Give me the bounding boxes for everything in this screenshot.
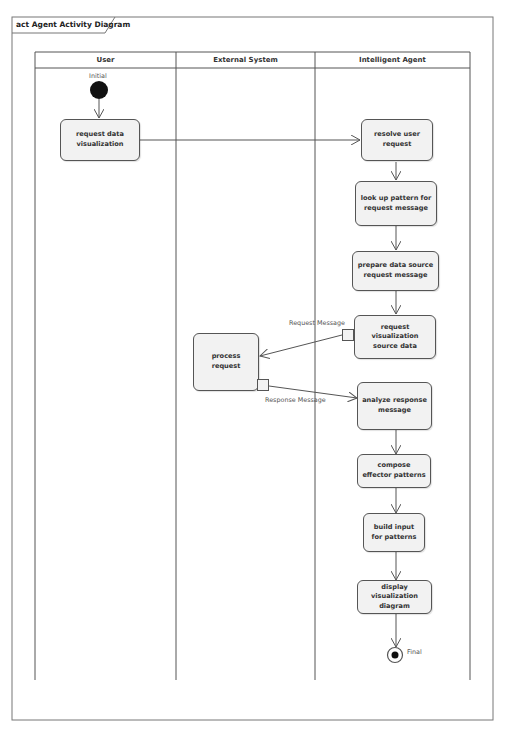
action-look-up-pattern[interactable]: look up pattern for request message — [355, 181, 437, 226]
swimlane-header-user: User — [35, 52, 176, 69]
final-node-label: Final — [407, 648, 422, 656]
output-pin-request-message — [342, 329, 354, 341]
diagram-frame-title: act Agent Activity Diagram — [12, 17, 148, 33]
swimlane-header-intelligent-agent: Intelligent Agent — [315, 52, 470, 69]
action-analyze-response-message[interactable]: analyze response message — [357, 382, 432, 430]
activity-diagram-canvas: act Agent Activity Diagram User External… — [0, 0, 506, 731]
action-process-request[interactable]: process request — [193, 333, 259, 391]
swimlane-header-external-system: External System — [176, 52, 315, 69]
action-request-visualization-source-data[interactable]: request visualization source data — [354, 315, 436, 359]
action-display-visualization-diagram[interactable]: display visualization diagram — [357, 580, 432, 614]
object-flow-label-response-message: Response Message — [265, 396, 326, 404]
output-pin-response-message — [257, 379, 269, 391]
initial-node-icon — [90, 81, 108, 99]
action-compose-effector-patterns[interactable]: compose effector patterns — [357, 454, 431, 488]
object-flow-label-request-message: Request Message — [289, 319, 345, 327]
action-resolve-user-request[interactable]: resolve user request — [361, 119, 433, 161]
action-prepare-data-source-request[interactable]: prepare data source request message — [352, 251, 439, 291]
initial-node-label: Initial — [89, 72, 107, 80]
action-build-input-for-patterns[interactable]: build input for patterns — [363, 513, 425, 552]
action-request-data-visualization[interactable]: request data visualization — [60, 119, 140, 161]
